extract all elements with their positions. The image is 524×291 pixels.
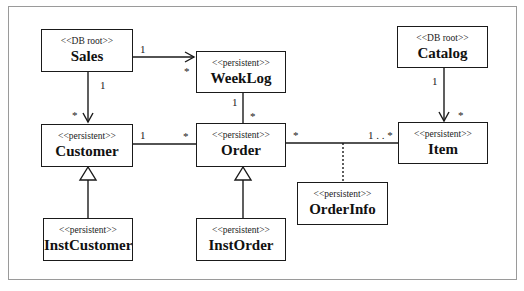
class-stereotype: <<persistent>> [197, 130, 285, 141]
multiplicity-label: * [293, 130, 299, 141]
class-instcustomer[interactable]: <<persistent>> InstCustomer [43, 218, 133, 261]
class-order[interactable]: <<persistent>> Order [196, 123, 286, 167]
generalization-triangle-icon [80, 167, 96, 180]
class-item[interactable]: <<persistent>> Item [398, 122, 488, 164]
multiplicity-label: * [183, 131, 189, 142]
multiplicity-label: 1 [232, 97, 238, 108]
class-stereotype: <<persistent>> [197, 225, 285, 236]
multiplicity-label: * [250, 111, 256, 122]
class-name: Sales [42, 47, 132, 65]
multiplicity-label: 1 [432, 76, 438, 87]
class-name: WeekLog [197, 69, 285, 87]
class-name: InstOrder [197, 236, 285, 254]
multiplicity-label: * [458, 110, 464, 121]
class-name: OrderInfo [298, 200, 387, 218]
multiplicity-label: 1 [140, 130, 146, 141]
class-name: Catalog [398, 44, 487, 62]
multiplicity-label: 1 . . * [368, 130, 393, 141]
class-stereotype: <<DB root>> [398, 33, 487, 44]
class-weeklog[interactable]: <<persistent>> WeekLog [196, 51, 286, 93]
class-sales[interactable]: <<DB root>> Sales [41, 29, 133, 72]
multiplicity-label: 1 [100, 80, 106, 91]
multiplicity-label: 1 [140, 44, 146, 55]
class-stereotype: <<persistent>> [399, 129, 487, 140]
class-stereotype: <<persistent>> [42, 131, 132, 142]
multiplicity-label: * [184, 66, 190, 77]
class-stereotype: <<persistent>> [44, 225, 132, 236]
class-catalog[interactable]: <<DB root>> Catalog [397, 26, 488, 68]
generalization-triangle-icon [235, 167, 251, 180]
multiplicity-label: * [72, 110, 78, 121]
class-orderinfo[interactable]: <<persistent>> OrderInfo [297, 182, 388, 225]
class-instorder[interactable]: <<persistent>> InstOrder [196, 218, 286, 261]
class-customer[interactable]: <<persistent>> Customer [41, 124, 133, 167]
class-name: Order [197, 141, 285, 159]
class-stereotype: <<DB root>> [42, 36, 132, 47]
class-name: Customer [42, 142, 132, 160]
class-stereotype: <<persistent>> [197, 58, 285, 69]
class-name: Item [399, 140, 487, 158]
class-name: InstCustomer [44, 236, 132, 254]
class-stereotype: <<persistent>> [298, 189, 387, 200]
